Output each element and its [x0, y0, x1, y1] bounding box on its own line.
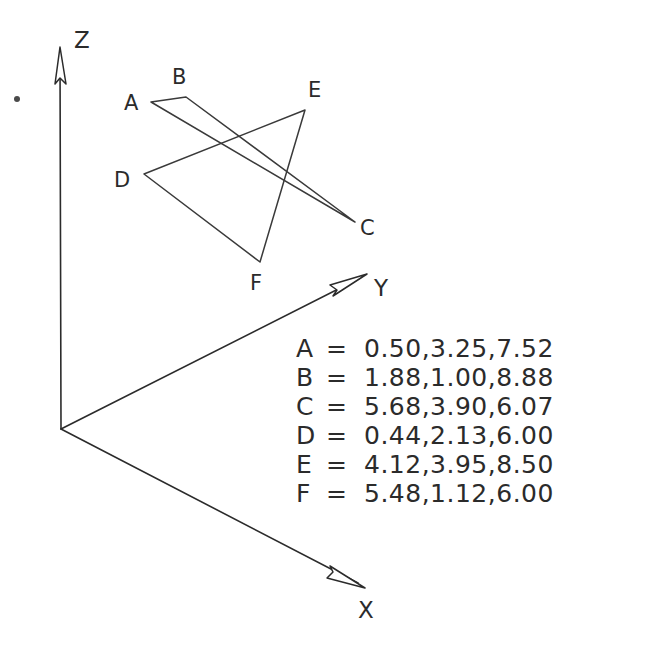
coord-row-values: 5.48,1.12,6.00	[364, 479, 554, 508]
coord-row-name: D	[296, 421, 326, 450]
coord-row-equals: =	[326, 363, 364, 392]
x-axis-label: X	[358, 597, 374, 623]
coord-row-values: 0.44,2.13,6.00	[364, 421, 554, 450]
z-axis-arrowhead	[55, 47, 66, 84]
coord-row-name: A	[296, 334, 326, 363]
diagram-canvas: Z Y X A B C D E F	[0, 0, 662, 662]
coord-row-values: 0.50,3.25,7.52	[364, 334, 554, 363]
coord-row-name: E	[296, 450, 326, 479]
x-axis-arrowhead	[327, 566, 365, 588]
coord-row-equals: =	[326, 421, 364, 450]
coordinate-table: A = 0.50,3.25,7.52 B = 1.88,1.00,8.88 C …	[296, 334, 554, 508]
coord-row-values: 5.68,3.90,6.07	[364, 392, 554, 421]
table-row: D = 0.44,2.13,6.00	[296, 421, 554, 450]
vertex-label-e: E	[308, 78, 321, 102]
vertex-label-b: B	[172, 65, 186, 89]
stray-dot	[14, 96, 20, 102]
table-row: A = 0.50,3.25,7.52	[296, 334, 554, 363]
vertex-label-f: F	[250, 271, 262, 295]
coord-row-name: F	[296, 479, 326, 508]
table-row: B = 1.88,1.00,8.88	[296, 363, 554, 392]
table-row: F = 5.48,1.12,6.00	[296, 479, 554, 508]
table-row: E = 4.12,3.95,8.50	[296, 450, 554, 479]
vertex-label-d: D	[114, 168, 130, 192]
coord-row-equals: =	[326, 450, 364, 479]
coord-row-equals: =	[326, 392, 364, 421]
y-axis-label: Y	[373, 275, 389, 301]
z-axis-label: Z	[74, 27, 90, 53]
triangle-def-outline	[144, 110, 305, 262]
coord-row-name: C	[296, 392, 326, 421]
triangle-def	[144, 110, 305, 262]
vertex-label-c: C	[360, 216, 375, 240]
coord-row-equals: =	[326, 479, 364, 508]
z-axis-line	[60, 56, 61, 429]
coord-row-name: B	[296, 363, 326, 392]
y-axis-arrowhead	[330, 274, 367, 296]
coord-row-values: 1.88,1.00,8.88	[364, 363, 554, 392]
table-row: C = 5.68,3.90,6.07	[296, 392, 554, 421]
coord-row-equals: =	[326, 334, 364, 363]
coord-row-values: 4.12,3.95,8.50	[364, 450, 554, 479]
vertex-label-a: A	[124, 91, 139, 115]
